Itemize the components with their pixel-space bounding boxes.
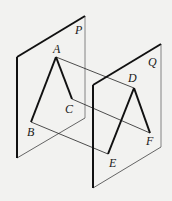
segment-ac	[56, 57, 72, 99]
segment-de	[108, 88, 134, 154]
segment-df	[134, 88, 150, 133]
angle-edf	[108, 88, 150, 154]
label-plane-q: Q	[148, 55, 157, 69]
label-point-f: F	[145, 134, 154, 148]
label-point-b: B	[27, 125, 35, 139]
segment-cf	[72, 99, 150, 133]
label-plane-p: P	[74, 23, 83, 37]
segment-ab	[31, 57, 56, 122]
label-point-e: E	[108, 156, 117, 170]
plane-q-bottom-edge	[93, 147, 161, 188]
label-point-a: A	[52, 42, 61, 56]
parallel-planes-diagram: P Q A B C D E F	[0, 0, 172, 201]
label-point-d: D	[127, 71, 137, 85]
label-point-c: C	[65, 102, 74, 116]
